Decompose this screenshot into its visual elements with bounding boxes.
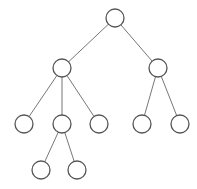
tree-edge-a2-a2b — [65, 133, 74, 162]
tree-node-a3 — [90, 115, 108, 133]
tree-node-a — [53, 59, 71, 77]
tree-node-b — [149, 59, 167, 77]
tree-node-b2 — [171, 115, 189, 133]
tree-svg — [0, 0, 197, 189]
tree-diagram — [0, 0, 197, 189]
tree-node-a1 — [15, 115, 33, 133]
tree-edge-root-b — [121, 25, 152, 61]
tree-node-b1 — [133, 115, 151, 133]
tree-nodes — [15, 9, 189, 179]
tree-node-a2a — [32, 161, 50, 179]
tree-edge-a2-a2a — [45, 132, 59, 162]
tree-edge-root-a — [69, 24, 109, 62]
tree-edge-b-b1 — [144, 77, 155, 116]
tree-node-a2b — [68, 161, 86, 179]
tree-node-root — [106, 9, 124, 27]
tree-edge-a-a1 — [29, 75, 57, 116]
tree-edge-b-b2 — [161, 76, 176, 115]
tree-node-a2 — [53, 115, 71, 133]
tree-edge-a-a3 — [67, 76, 94, 117]
tree-edges — [29, 24, 177, 162]
